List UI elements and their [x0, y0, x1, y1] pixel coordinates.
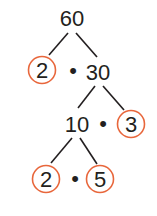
level2-separator: •: [99, 111, 107, 136]
level3-right-number: 5: [94, 167, 106, 192]
level3-separator: •: [71, 166, 79, 191]
level3-left-number: 2: [40, 167, 52, 192]
level2-left-number: 10: [65, 112, 89, 137]
factor-tree-diagram: 60 2 • 30 10 • 3 2 • 5: [0, 0, 157, 216]
root-number: 60: [60, 6, 84, 31]
branch-10-to-2: [51, 138, 72, 163]
level1-left-number: 2: [36, 58, 48, 83]
level2-right-number: 3: [125, 112, 137, 137]
branch-60-to-30: [76, 33, 97, 57]
branch-60-to-2: [49, 33, 68, 55]
level1-right-number: 30: [86, 60, 110, 85]
level1-separator: •: [69, 58, 77, 83]
branch-10-to-5: [80, 138, 97, 164]
branch-30-to-3: [103, 86, 124, 110]
tree-branches: [49, 33, 124, 164]
branch-30-to-10: [78, 86, 95, 108]
